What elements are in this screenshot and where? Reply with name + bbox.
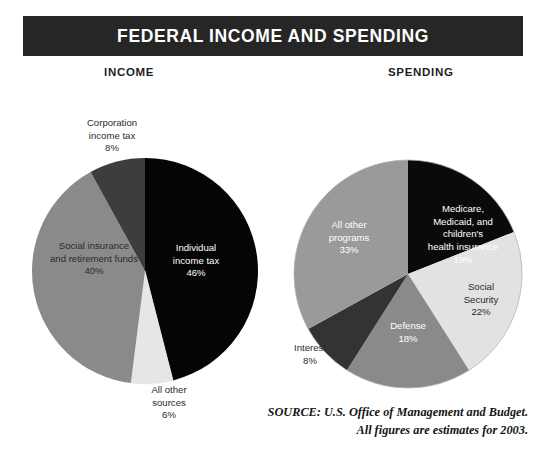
source-line-1: SOURCE: U.S. Office of Management and Bu… [256,404,528,422]
page-title: FEDERAL INCOME AND SPENDING [117,26,429,47]
income-slices [32,158,258,384]
income-label-corporation-income-tax: Corporation income tax 8% [62,117,162,155]
federal-budget-figure: FEDERAL INCOME AND SPENDING INCOME SPEND… [0,0,559,462]
source-line-2: All figures are estimates for 2003. [256,422,528,440]
spending-section-heading: SPENDING [388,66,454,78]
income-label-all-other-sources: All other sources 6% [128,384,210,422]
income-pie-chart [30,156,260,386]
income-section-heading: INCOME [104,66,154,78]
spending-slices [294,160,522,388]
figure-title-bar: FEDERAL INCOME AND SPENDING [23,16,523,56]
spending-pie-chart [292,158,524,390]
source-note: SOURCE: U.S. Office of Management and Bu… [256,404,528,440]
